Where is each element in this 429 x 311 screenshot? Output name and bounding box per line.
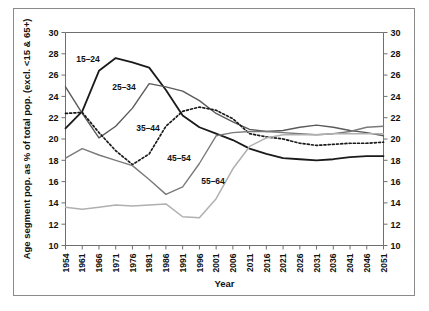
series-line-15-24: [66, 58, 384, 160]
chart-canvas: 1012141618202224262830101214161820222426…: [0, 0, 429, 311]
series-annotation: 55–64: [201, 176, 225, 186]
y-axis-title: Age segment pop. as % of total pop. (exc…: [21, 19, 32, 260]
y-tick-label-left: 18: [48, 156, 58, 166]
y-tick-label-right: 24: [391, 92, 401, 102]
x-tick-label: 1986: [161, 253, 171, 272]
y-tick-label-left: 28: [48, 49, 58, 59]
series-line-35-44: [66, 107, 384, 165]
figure-root: 1012141618202224262830101214161820222426…: [0, 0, 429, 311]
x-tick-label: 1981: [144, 253, 154, 272]
x-tick-label: 2006: [228, 253, 238, 272]
y-tick-label-left: 26: [48, 70, 58, 80]
x-tick-label: 1971: [111, 253, 121, 272]
x-tick-label: 2041: [345, 253, 355, 272]
y-tick-label-left: 22: [48, 113, 58, 123]
x-tick-label: 1961: [77, 253, 87, 272]
line-chart: 1012141618202224262830101214161820222426…: [0, 0, 429, 311]
x-tick-label: 1996: [195, 253, 205, 272]
x-tick-label: 2001: [211, 253, 221, 272]
y-tick-label-right: 10: [391, 241, 401, 251]
x-tick-label: 2046: [362, 253, 372, 272]
x-tick-label: 2021: [278, 253, 288, 272]
y-tick-label-right: 28: [391, 49, 401, 59]
x-tick-label: 1976: [128, 253, 138, 272]
y-tick-label-left: 14: [48, 198, 58, 208]
x-tick-label: 1954: [61, 253, 71, 272]
y-tick-label-left: 16: [48, 177, 58, 187]
x-tick-label: 2031: [312, 253, 322, 272]
y-tick-label-right: 22: [391, 113, 401, 123]
x-tick-label: 2026: [295, 253, 305, 272]
y-tick-label-right: 12: [391, 220, 401, 230]
y-tick-label-left: 12: [48, 220, 58, 230]
y-tick-label-right: 16: [391, 177, 401, 187]
y-tick-label-right: 26: [391, 70, 401, 80]
series-annotation: 15–24: [76, 54, 100, 64]
y-tick-label-left: 20: [48, 134, 58, 144]
y-tick-label-right: 20: [391, 134, 401, 144]
y-tick-label-right: 14: [391, 198, 401, 208]
y-tick-label-right: 30: [391, 28, 401, 38]
series-annotation: 35–44: [136, 123, 160, 133]
series-annotation: 45–54: [167, 153, 191, 163]
x-tick-label: 2016: [262, 253, 272, 272]
y-tick-label-left: 24: [48, 92, 58, 102]
y-tick-label-left: 10: [48, 241, 58, 251]
x-tick-label: 2011: [245, 253, 255, 272]
series-annotation: 25–34: [112, 82, 136, 92]
x-tick-label: 1966: [94, 253, 104, 272]
y-tick-label-right: 18: [391, 156, 401, 166]
x-tick-label: 2036: [328, 253, 338, 272]
y-tick-label-left: 30: [48, 28, 58, 38]
x-axis-title: Year: [214, 278, 234, 289]
x-tick-label: 2051: [379, 253, 389, 272]
x-tick-label: 1991: [178, 253, 188, 272]
